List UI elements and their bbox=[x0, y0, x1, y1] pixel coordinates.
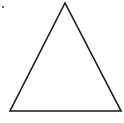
diagram-canvas bbox=[0, 0, 124, 123]
triangle-shape bbox=[10, 3, 121, 111]
marker-dot bbox=[2, 6, 4, 8]
